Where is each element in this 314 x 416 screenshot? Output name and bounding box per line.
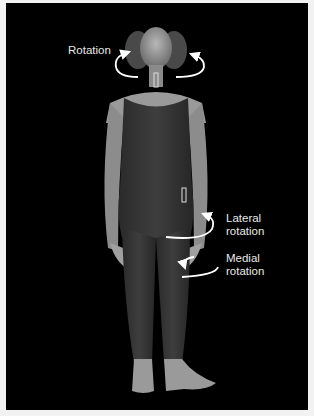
left-leg: [122, 228, 156, 363]
rotation-label: Rotation: [68, 44, 111, 57]
head: [140, 27, 172, 69]
medial-rotation-label-line1: Medial: [226, 252, 260, 265]
torso: [118, 98, 193, 238]
right-leg: [156, 228, 190, 363]
lateral-rotation-label-line1: Lateral: [226, 212, 261, 225]
right-foot: [164, 359, 216, 391]
anatomy-photo: Rotation Lateral rotation Medial rotatio…: [6, 3, 308, 410]
left-foot: [132, 359, 154, 393]
lateral-rotation-label-line2: rotation: [226, 225, 264, 238]
medial-rotation-label-line2: rotation: [226, 265, 264, 278]
figure-illustration: [6, 3, 308, 410]
